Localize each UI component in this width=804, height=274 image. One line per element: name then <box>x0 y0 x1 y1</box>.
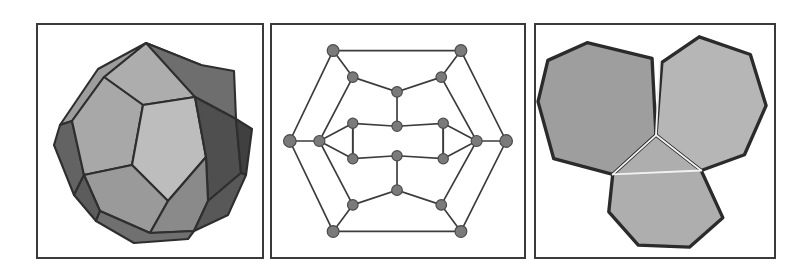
graph-vertex <box>348 154 358 164</box>
graph-vertex <box>436 200 447 211</box>
graph-vertex <box>327 226 339 238</box>
panel-heptagon-vertex-figure: Three regular heptagons meeting at a sin… <box>534 23 776 259</box>
graph-vertex <box>284 135 297 148</box>
schlegel-svg <box>272 25 524 257</box>
heptagon-group <box>538 37 766 247</box>
graph-vertex <box>438 154 448 164</box>
dodecahedron-svg <box>38 25 262 257</box>
graph-vertex <box>327 45 339 57</box>
graph-vertex <box>392 185 403 196</box>
graph-vertex <box>471 135 482 146</box>
graph-vertex <box>500 135 513 148</box>
heptagon-svg <box>536 25 774 257</box>
graph-vertex <box>392 151 402 161</box>
graph-vertex <box>392 121 402 131</box>
graph-vertex <box>347 200 358 211</box>
graph-vertex <box>455 226 467 238</box>
graph-vertex <box>438 118 448 128</box>
figure-root: Shaded three-dimensional dodecahedron <box>0 0 804 274</box>
dodecahedron-faces <box>54 43 252 243</box>
graph-vertex <box>314 135 325 146</box>
graph-vertex <box>436 72 447 83</box>
graph-vertex <box>348 118 358 128</box>
schlegel-vertices <box>284 45 513 238</box>
graph-vertex <box>455 45 467 57</box>
graph-vertex <box>347 72 358 83</box>
panel-schlegel-diagram: Schlegel diagram of the dodecahedron <box>270 23 526 259</box>
graph-vertex <box>392 87 403 98</box>
panel-dodecahedron-rendering: Shaded three-dimensional dodecahedron <box>36 23 264 259</box>
